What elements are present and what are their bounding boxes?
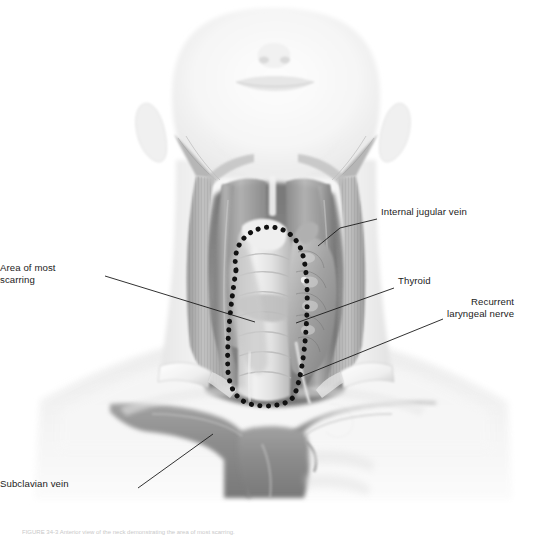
label-area-of-most-scarring: Area of most scarring <box>0 262 105 285</box>
label-thyroid: Thyroid <box>398 275 431 287</box>
anatomical-figure: Area of most scarring Internal jugular v… <box>0 0 546 538</box>
label-subclavian-vein: Subclavian vein <box>0 478 138 490</box>
label-recurrent-laryngeal-nerve: Recurrent laryngeal nerve <box>447 296 514 319</box>
nose <box>258 43 291 68</box>
ear-left <box>136 103 167 162</box>
ear-right <box>379 103 410 162</box>
label-internal-jugular-vein: Internal jugular vein <box>381 206 467 218</box>
figure-caption: FIGURE 34-3 Anterior view of the neck de… <box>22 528 522 536</box>
